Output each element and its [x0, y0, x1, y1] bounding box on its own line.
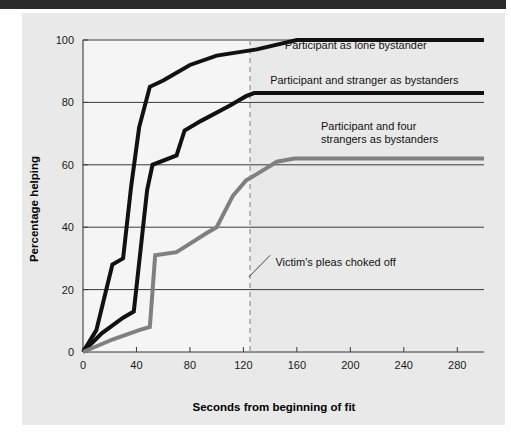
y-tick-label: 80	[62, 96, 74, 108]
chart-annotation-label: Victim's pleas choked off	[275, 256, 396, 268]
page-top-bar	[0, 0, 506, 9]
x-axis-tick-labels: 04080120160200240280	[80, 359, 467, 371]
y-tick-label: 100	[56, 34, 74, 46]
figure-page: 04080120160200240280 020406080100 Partic…	[0, 0, 511, 447]
chart-annotations: Victim's pleas choked off	[275, 256, 396, 268]
x-axis-title: Seconds from beginning of fit	[193, 401, 356, 413]
series-label: Participant and fourstrangers as bystand…	[321, 120, 439, 145]
chart-panel: 04080120160200240280 020406080100 Partic…	[22, 13, 505, 425]
y-tick-label: 0	[68, 346, 74, 358]
series-label: Participant as lone bystander	[285, 39, 427, 51]
x-tick-label: 200	[341, 359, 359, 371]
y-tick-label: 20	[62, 284, 74, 296]
x-tick-label: 40	[130, 359, 142, 371]
annotation-leader-line	[249, 255, 270, 277]
line-chart: 04080120160200240280 020406080100 Partic…	[22, 13, 505, 425]
y-axis-tick-labels: 020406080100	[56, 34, 74, 358]
y-tick-label: 40	[62, 221, 74, 233]
y-tick-label: 60	[62, 159, 74, 171]
series-label: Participant and stranger as bystanders	[270, 74, 459, 86]
y-axis-title: Percentage helping	[28, 156, 40, 262]
x-tick-label: 280	[448, 359, 466, 371]
x-tick-label: 0	[80, 359, 86, 371]
x-tick-label: 240	[395, 359, 413, 371]
x-tick-label: 80	[184, 359, 196, 371]
x-tick-label: 160	[288, 359, 306, 371]
x-tick-label: 120	[234, 359, 252, 371]
pleas-active-region	[83, 40, 250, 352]
